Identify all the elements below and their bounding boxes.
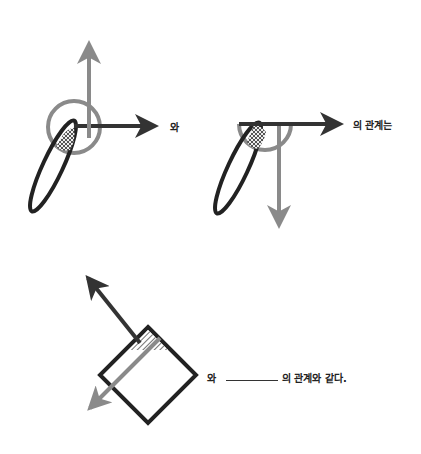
semicircle-shape	[239, 124, 291, 150]
label-diagram-2: 의 관계는	[353, 117, 392, 132]
diagram-2	[208, 118, 340, 225]
diagram-canvas	[0, 0, 421, 454]
label-prefix: 와	[207, 373, 216, 384]
answer-blank[interactable]	[226, 380, 278, 381]
label-diagram-1: 와	[170, 119, 179, 134]
label-diagram-3: 와의 관계와 같다.	[207, 370, 347, 385]
diagram-1	[23, 44, 155, 216]
label-suffix: 의 관계와 같다.	[282, 373, 347, 384]
diagonal-dark-arrow	[88, 278, 140, 343]
diagram-3	[88, 278, 196, 423]
